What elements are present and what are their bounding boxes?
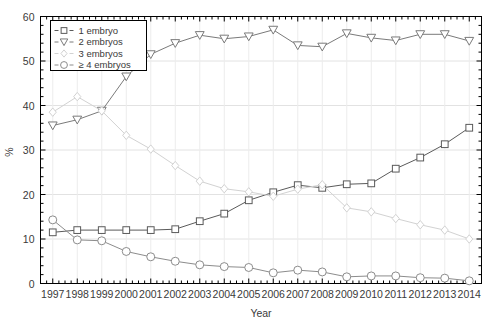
x-tick-label: 1999 [90, 288, 114, 300]
x-tick-label: 2010 [360, 288, 384, 300]
data-point-marker [465, 277, 473, 285]
data-point-marker [49, 229, 56, 236]
data-point-marker [245, 263, 253, 271]
data-point-marker [73, 236, 81, 244]
legend-label: 2 embryos [79, 36, 124, 47]
y-tick-label: 30 [23, 144, 35, 156]
data-point-marker [147, 227, 154, 234]
data-point-marker [392, 272, 400, 280]
data-point-marker [392, 165, 399, 172]
line-chart: 0102030405060 19971998199920002001200220… [0, 0, 494, 321]
data-point-marker [49, 216, 57, 224]
data-point-marker [416, 274, 424, 282]
legend-label: ≥ 4 embryos [79, 59, 131, 70]
y-tick-label: 0 [29, 278, 35, 290]
data-point-marker [221, 210, 228, 217]
data-point-marker [147, 253, 155, 261]
x-tick-label: 2003 [188, 288, 212, 300]
data-point-marker [98, 227, 105, 234]
x-tick-label: 2004 [213, 288, 237, 300]
x-tick-label: 2000 [115, 288, 139, 300]
data-point-marker [343, 181, 350, 188]
x-tick-label: 2014 [458, 288, 482, 300]
x-tick-label: 2005 [237, 288, 261, 300]
data-point-marker [171, 257, 179, 265]
y-tick-label: 60 [23, 11, 35, 23]
y-tick-label: 10 [23, 233, 35, 245]
data-point-marker [294, 266, 302, 274]
data-point-marker [61, 62, 68, 69]
data-point-marker [122, 247, 130, 255]
legend-label: 1 embryo [79, 25, 119, 36]
y-tick-label: 50 [23, 55, 35, 67]
x-tick-label: 2002 [164, 288, 188, 300]
data-point-marker [245, 197, 252, 204]
data-point-marker [417, 154, 424, 161]
y-tick-label: 20 [23, 189, 35, 201]
data-point-marker [269, 269, 277, 277]
x-tick-label: 2013 [433, 288, 457, 300]
data-point-marker [343, 273, 351, 281]
x-tick-label: 2011 [384, 288, 407, 300]
x-tick-label: 2012 [409, 288, 433, 300]
x-tick-label: 2001 [139, 288, 163, 300]
data-point-marker [220, 263, 228, 271]
data-point-marker [196, 261, 204, 269]
data-point-marker [318, 268, 326, 276]
data-point-marker [61, 28, 67, 34]
x-tick-label: 2006 [262, 288, 286, 300]
data-point-marker [98, 237, 106, 245]
x-tick-label: 2007 [286, 288, 310, 300]
y-axis-label: % [3, 147, 15, 156]
data-point-marker [74, 227, 81, 234]
data-point-marker [466, 124, 473, 131]
x-tick-label: 2009 [335, 288, 359, 300]
x-axis-label: Year [250, 307, 272, 319]
data-point-marker [441, 141, 448, 148]
x-tick-label: 2008 [311, 288, 335, 300]
x-tick-label: 1998 [66, 288, 90, 300]
data-point-marker [196, 218, 203, 225]
x-tick-label: 1997 [41, 288, 65, 300]
chart-legend[interactable]: 1 embryo2 embryos3 embryos≥ 4 embryos [51, 21, 147, 71]
data-point-marker [441, 274, 449, 282]
data-point-marker [172, 226, 179, 233]
legend-label: 3 embryos [79, 48, 124, 59]
data-point-marker [368, 180, 375, 187]
y-tick-label: 40 [23, 100, 35, 112]
chart-figure: 0102030405060 19971998199920002001200220… [0, 0, 494, 321]
data-point-marker [367, 272, 375, 280]
data-point-marker [123, 227, 130, 234]
